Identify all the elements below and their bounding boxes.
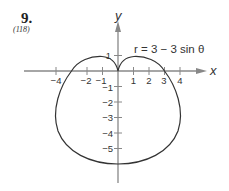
x-tick-label: 4 xyxy=(177,75,182,86)
x-tick-label: −2 xyxy=(81,75,92,86)
x-tick-label: 2 xyxy=(146,75,151,86)
y-axis-label: y xyxy=(114,8,123,23)
y-tick-label: −5 xyxy=(102,143,113,154)
y-tick-label: −2 xyxy=(102,97,113,108)
x-tick-label: −4 xyxy=(51,75,62,86)
equation-label: r = 3 − 3 sin θ xyxy=(134,43,204,55)
x-axis-arrow-icon xyxy=(196,68,207,74)
y-tick-label: −1 xyxy=(102,82,113,93)
x-tick-label: 1 xyxy=(131,75,136,86)
x-tick-label: 3 xyxy=(161,75,166,86)
y-tick-label: −3 xyxy=(102,112,113,123)
polar-graph: −4 −2 −1 1 2 3 4 1 −1 −2 −3 −4 −5 x y r … xyxy=(0,0,229,191)
x-axis-label: x xyxy=(209,63,217,78)
y-tick-label: −4 xyxy=(102,128,113,139)
